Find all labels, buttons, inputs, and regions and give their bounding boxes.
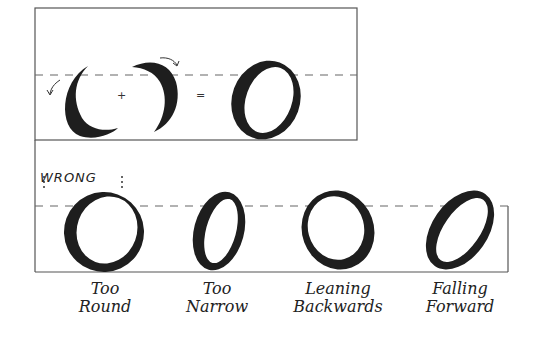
label-line2: Backwards bbox=[283, 298, 393, 316]
label-line1: Too bbox=[60, 280, 150, 298]
left-stroke-icon bbox=[65, 66, 118, 138]
falling-forward-o-icon bbox=[412, 178, 508, 282]
right-stroke-icon bbox=[132, 62, 178, 132]
label-too-round: Too Round bbox=[60, 280, 150, 316]
label-too-narrow: Too Narrow bbox=[172, 280, 262, 316]
too-narrow-o-icon bbox=[184, 186, 253, 276]
label-line1: Leaning bbox=[283, 280, 393, 298]
label-leaning-backwards: Leaning Backwards bbox=[283, 280, 393, 316]
label-line2: Round bbox=[60, 298, 150, 316]
label-falling-forward: Falling Forward bbox=[410, 280, 510, 316]
label-line2: Narrow bbox=[172, 298, 262, 316]
too-round-o-icon bbox=[53, 181, 156, 284]
result-o-icon bbox=[220, 51, 311, 149]
label-line1: Too bbox=[172, 280, 262, 298]
label-line2: Forward bbox=[410, 298, 510, 316]
label-line1: Falling bbox=[410, 280, 510, 298]
leaning-backwards-o-icon bbox=[290, 180, 385, 280]
wrong-label: WRONG bbox=[40, 170, 97, 185]
equals-sign: = bbox=[196, 89, 205, 102]
plus-sign: + bbox=[117, 89, 126, 102]
